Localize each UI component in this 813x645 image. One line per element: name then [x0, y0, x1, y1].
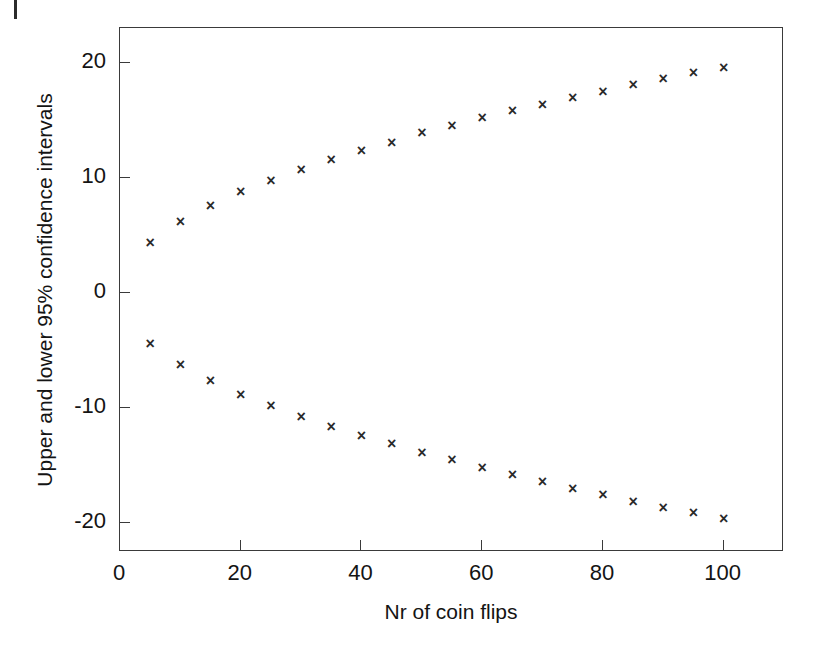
x-axis-tick [481, 540, 482, 551]
figure-canvas: 20100-10-20 Upper and lower 95% confiden… [0, 0, 813, 645]
data-point-marker: × [475, 110, 490, 125]
data-point-marker: × [626, 494, 641, 509]
data-point-marker: × [656, 500, 671, 515]
y-axis-tick [119, 292, 130, 293]
data-point-marker: × [475, 460, 490, 475]
x-axis-tick-label: 40 [315, 560, 405, 586]
data-point-marker: × [565, 90, 580, 105]
data-point-marker: × [445, 118, 460, 133]
data-point-marker: × [203, 198, 218, 213]
data-point-marker: × [505, 467, 520, 482]
data-point-marker: × [445, 452, 460, 467]
x-axis-tick-label: 80 [557, 560, 647, 586]
data-point-marker: × [143, 235, 158, 250]
data-point-marker: × [414, 445, 429, 460]
data-point-marker: × [233, 184, 248, 199]
data-point-marker: × [173, 357, 188, 372]
y-axis-tick [119, 177, 130, 178]
data-point-marker: × [294, 409, 309, 424]
data-point-marker: × [686, 505, 701, 520]
data-point-marker: × [173, 214, 188, 229]
x-axis-tick [602, 540, 603, 551]
data-point-marker: × [263, 173, 278, 188]
data-point-marker: × [324, 152, 339, 167]
y-axis-title-text: Upper and lower 95% confidence intervals [33, 28, 57, 552]
y-axis-title: Upper and lower 95% confidence intervals [33, 28, 63, 552]
x-axis-title: Nr of coin flips [119, 600, 783, 624]
y-axis-tick [119, 62, 130, 63]
data-point-marker: × [354, 143, 369, 158]
data-point-marker: × [414, 125, 429, 140]
y-axis-tick [119, 522, 130, 523]
data-point-marker: × [233, 387, 248, 402]
data-point-marker: × [626, 77, 641, 92]
data-point-marker: × [716, 511, 731, 526]
data-point-marker: × [505, 103, 520, 118]
data-point-marker: × [716, 60, 731, 75]
data-point-marker: × [203, 373, 218, 388]
data-point-marker: × [595, 84, 610, 99]
y-axis-tick [119, 407, 130, 408]
data-point-marker: × [535, 97, 550, 112]
data-point-marker: × [294, 162, 309, 177]
data-point-marker: × [354, 428, 369, 443]
x-axis-tick-label: 0 [74, 560, 164, 586]
x-axis-tick [240, 540, 241, 551]
data-point-marker: × [565, 481, 580, 496]
data-point-marker: × [143, 336, 158, 351]
data-point-marker: × [595, 487, 610, 502]
data-point-marker: × [263, 398, 278, 413]
x-axis-tick-label: 60 [436, 560, 526, 586]
x-axis-tick [360, 540, 361, 551]
x-axis-tick-label: 20 [195, 560, 285, 586]
data-point-marker: × [384, 135, 399, 150]
data-point-marker: × [686, 65, 701, 80]
x-axis-tick [723, 540, 724, 551]
data-point-marker: × [535, 474, 550, 489]
x-axis-tick [119, 540, 120, 551]
x-axis-tick-labels: 020406080100 [0, 560, 813, 600]
x-axis-tick-label: 100 [678, 560, 768, 586]
data-point-marker: × [656, 71, 671, 86]
data-point-marker: × [324, 419, 339, 434]
data-point-marker: × [384, 436, 399, 451]
plot-data-area: ×××××××××××××××××××××××××××××××××××××××× [120, 28, 782, 550]
plot-frame: ×××××××××××××××××××××××××××××××××××××××× [119, 27, 783, 551]
